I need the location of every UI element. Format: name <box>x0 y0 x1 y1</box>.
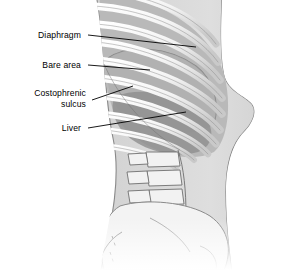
bottom-fade <box>0 218 286 270</box>
label-bare-area: Bare area <box>42 60 81 71</box>
anatomy-illustration <box>0 0 286 270</box>
anatomy-figure: Diaphragm Bare area Costophrenic sulcus … <box>0 0 286 270</box>
label-liver: Liver <box>62 123 81 134</box>
label-costophrenic-sulcus: Costophrenic sulcus <box>34 88 86 109</box>
label-diaphragm: Diaphragm <box>38 30 81 41</box>
